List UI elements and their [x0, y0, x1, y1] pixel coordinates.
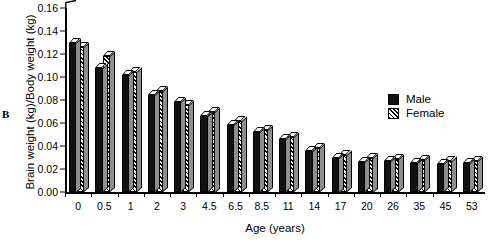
y-tick-mark: [60, 146, 65, 147]
bar-side-face: [129, 70, 134, 192]
y-tick-label: 0.10: [24, 71, 58, 83]
bar-side-face: [320, 144, 325, 192]
x-tick-label: 53: [466, 200, 478, 212]
bar-side-face: [444, 160, 449, 192]
bar-side-face: [470, 159, 475, 192]
bar-side-face: [208, 112, 213, 192]
bar-side-face: [313, 146, 318, 192]
bar-side-face: [347, 151, 352, 192]
y-tick-mark: [60, 123, 65, 124]
x-axis-3d-depth: [65, 192, 485, 199]
x-tick-label: 14: [309, 200, 321, 212]
bar-male-6.5: [227, 125, 234, 192]
legend-item-female: Female: [388, 106, 444, 120]
bar-side-face: [110, 52, 115, 192]
chart-legend: Male Female: [388, 92, 444, 120]
y-tick-mark: [60, 8, 65, 9]
legend-swatch-female-icon: [388, 108, 399, 119]
y-tick-label: 0.00: [24, 186, 58, 198]
bar-side-face: [268, 125, 273, 192]
y-tick-label: 0.12: [24, 48, 58, 60]
bar-front-face: [384, 161, 391, 192]
x-axis-title: Age (years): [65, 222, 485, 234]
bar-male-1: [122, 75, 129, 192]
bar-male-0: [69, 43, 76, 193]
bar-male-2: [148, 95, 155, 192]
bar-front-face: [410, 163, 417, 192]
bar-side-face: [181, 98, 186, 192]
panel-label: B: [2, 108, 9, 120]
bar-front-face: [174, 102, 181, 192]
bar-front-face: [358, 162, 365, 192]
bar-side-face: [418, 159, 423, 192]
bar-male-35: [410, 163, 417, 192]
bar-front-face: [95, 68, 102, 192]
x-axis-tick-labels: 00.51234.56.58.51114172026354553: [65, 200, 485, 218]
bar-male-53: [463, 163, 470, 192]
bar-side-face: [286, 135, 291, 192]
y-tick-mark: [60, 169, 65, 170]
bar-side-face: [137, 68, 142, 192]
x-tick-label: 45: [440, 200, 452, 212]
bar-side-face: [189, 100, 194, 192]
bar-front-face: [332, 158, 339, 193]
x-tick-label: 2: [154, 200, 160, 212]
bar-side-face: [84, 43, 89, 192]
bar-side-face: [425, 155, 430, 192]
bar-front-face: [200, 116, 207, 192]
bar-side-face: [155, 91, 160, 192]
legend-label-female: Female: [406, 107, 444, 119]
bar-side-face: [242, 116, 247, 192]
y-tick-label: 0.08: [24, 94, 58, 106]
bar-male-14: [305, 151, 312, 192]
bar-front-face: [253, 132, 260, 192]
bar-side-face: [478, 156, 483, 192]
bar-male-4.5: [200, 116, 207, 192]
y-tick-label: 0.04: [24, 140, 58, 152]
x-tick-label: 11: [283, 200, 294, 212]
x-tick-label: 0: [75, 200, 81, 212]
bar-front-face: [69, 43, 76, 193]
x-tick-label: 17: [335, 200, 347, 212]
bar-male-45: [437, 164, 444, 192]
bar-side-face: [163, 86, 168, 192]
bar-side-face: [76, 38, 81, 192]
bar-male-0.5: [95, 68, 102, 192]
x-tick-label: 4.5: [202, 200, 217, 212]
bar-front-face: [279, 139, 286, 192]
bar-side-face: [234, 121, 239, 192]
x-tick-label: 26: [387, 200, 399, 212]
bar-side-face: [399, 154, 404, 192]
y-tick-mark: [60, 100, 65, 101]
y-tick-label: 0.02: [24, 163, 58, 175]
y-tick-label: 0.06: [24, 117, 58, 129]
x-tick-label: 0.5: [97, 200, 112, 212]
bar-front-face: [437, 164, 444, 192]
bar-side-face: [103, 63, 108, 192]
y-tick-label: 0.14: [24, 25, 58, 37]
y-tick-mark: [60, 31, 65, 32]
legend-label-male: Male: [406, 93, 431, 105]
bar-front-face: [122, 75, 129, 192]
x-tick-label: 35: [414, 200, 426, 212]
bar-male-11: [279, 139, 286, 192]
bar-male-17: [332, 158, 339, 193]
y-axis-tick-labels: 0.000.020.040.060.080.100.120.140.16: [24, 0, 58, 245]
x-tick-label: 6.5: [228, 200, 243, 212]
bar-side-face: [365, 158, 370, 192]
bar-male-20: [358, 162, 365, 192]
bar-male-3: [174, 102, 181, 192]
bar-side-face: [215, 107, 220, 192]
y-tick-mark: [60, 77, 65, 78]
bar-male-8.5: [253, 132, 260, 192]
bar-front-face: [227, 125, 234, 192]
y-tick-mark: [60, 54, 65, 55]
bar-side-face: [452, 156, 457, 192]
x-tick-label: 20: [361, 200, 373, 212]
bar-side-face: [391, 156, 396, 192]
bar-front-face: [305, 151, 312, 192]
bar-side-face: [339, 153, 344, 192]
bar-front-face: [463, 163, 470, 192]
chart-figure: B Brain weight (kg)/Body weight (kg) 0.0…: [0, 0, 492, 245]
legend-swatch-male-icon: [388, 94, 399, 105]
